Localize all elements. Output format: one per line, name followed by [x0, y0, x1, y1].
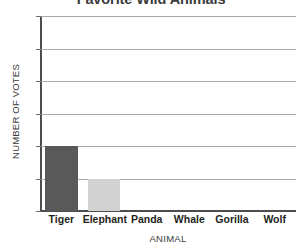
bar-tiger: [45, 146, 77, 211]
y-tick-mark-8: [36, 81, 41, 82]
x-tick-label-elephant: Elephant: [83, 213, 126, 225]
y-tick-mark-4: [36, 146, 41, 147]
x-axis-title: ANIMAL: [40, 233, 296, 244]
x-tick-label-gorilla: Gorilla: [211, 213, 254, 225]
y-axis-title: NUMBER OF VOTES: [10, 37, 21, 187]
bar-elephant: [88, 179, 120, 212]
y-tick-mark-0: [36, 211, 41, 212]
chart-title: Favorite Wild Animals: [0, 0, 302, 7]
x-tick-label-wolf: Wolf: [253, 213, 296, 225]
bar-chart: Favorite Wild Animals NUMBER OF VOTES 02…: [0, 0, 302, 249]
x-tick-label-tiger: Tiger: [40, 213, 83, 225]
x-tick-label-panda: Panda: [125, 213, 168, 225]
bars-layer: [40, 16, 296, 211]
x-tick-label-whale: Whale: [168, 213, 211, 225]
y-tick-mark-2: [36, 179, 41, 180]
y-tick-mark-6: [36, 114, 41, 115]
y-tick-mark-12: [36, 16, 41, 17]
x-axis-category-labels: TigerElephantPandaWhaleGorillaWolf: [40, 213, 296, 229]
y-tick-mark-10: [36, 49, 41, 50]
plot-area: [40, 16, 296, 211]
